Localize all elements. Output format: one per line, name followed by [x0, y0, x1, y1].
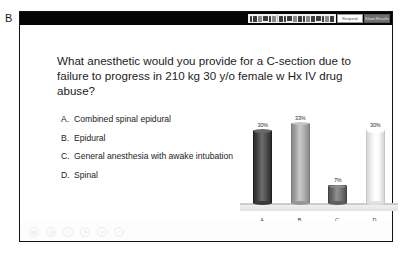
bold-icon[interactable]	[298, 16, 302, 22]
bar-group: 7%	[326, 114, 350, 204]
reply-icon[interactable]: ⤺	[114, 227, 124, 237]
question-text: What anesthetic would you provide for a …	[57, 53, 377, 98]
question-icon[interactable]: 2	[63, 227, 73, 237]
toolbar-divider	[277, 15, 278, 22]
settings-icon[interactable]	[330, 16, 334, 22]
list-item[interactable]: A. Combined spinal epidural	[61, 114, 246, 126]
show-results-button[interactable]: Show Results	[364, 14, 390, 23]
list-item[interactable]: C. General anesthesia with awake intubat…	[61, 151, 246, 163]
underline-icon[interactable]	[306, 16, 310, 22]
bar-group: 30%	[363, 114, 387, 204]
bar-base	[292, 201, 309, 204]
pen-icon[interactable]	[253, 16, 257, 22]
bar-base	[367, 201, 384, 204]
toolbar-icon-group-1	[248, 14, 336, 23]
image-icon[interactable]	[279, 16, 283, 22]
list-icon[interactable]: ≡	[97, 227, 107, 237]
bar-b	[291, 123, 310, 204]
bar-cap	[254, 129, 271, 132]
option-label: Spinal	[74, 170, 246, 182]
bar-a	[253, 130, 272, 204]
table-icon[interactable]	[287, 16, 292, 21]
option-label: Combined spinal epidural	[74, 114, 246, 126]
option-key: D.	[61, 170, 74, 182]
text-icon[interactable]	[272, 16, 276, 22]
option-key: B.	[61, 133, 74, 145]
bar-value-label: 33%	[295, 115, 306, 121]
respond-button[interactable]: Respond	[337, 14, 363, 23]
bar-cap	[329, 185, 346, 188]
bar-value-label: 7%	[334, 177, 342, 183]
answer-options-list: A. Combined spinal epidural B. Epidural …	[61, 114, 246, 188]
shapes-icon[interactable]	[269, 16, 271, 22]
chart-icon[interactable]	[284, 16, 286, 22]
highlighter-icon[interactable]	[258, 16, 262, 22]
option-label: Epidural	[74, 133, 246, 145]
bar-d	[366, 130, 385, 204]
bar-group: 33%	[288, 114, 312, 204]
option-key: C.	[61, 151, 74, 163]
chart-plot-area: 30% 33%	[238, 107, 398, 229]
option-key: A.	[61, 114, 74, 126]
slide-bottom-bar: ▣ ◍ 2 ✻ ≡ ⤺	[20, 221, 392, 241]
star-icon[interactable]: ✻	[80, 227, 90, 237]
bar-value-label: 30%	[370, 122, 381, 128]
zoom-icon[interactable]	[325, 16, 329, 22]
bar-c	[328, 185, 347, 204]
toolbar-controls: Respond Show Results	[248, 14, 392, 23]
camera-icon[interactable]: ▣	[29, 227, 39, 237]
list-item[interactable]: D. Spinal	[61, 170, 246, 182]
eraser-icon[interactable]	[263, 16, 268, 21]
bar-cap	[292, 122, 309, 125]
option-label: General anesthesia with awake intubation	[74, 151, 246, 163]
bar-base	[254, 201, 271, 204]
bar-group: 30%	[251, 114, 275, 204]
chart-bars: 30% 33%	[244, 114, 394, 204]
results-bar-chart: 30% 33%	[238, 107, 398, 229]
panel-letter: B	[5, 12, 12, 24]
figure-panel: B	[0, 0, 406, 253]
presentation-window: Respond Show Results What anesthetic wou…	[19, 11, 393, 242]
color-icon[interactable]	[322, 16, 324, 22]
cursor-icon[interactable]	[250, 16, 252, 22]
align-icon[interactable]	[311, 16, 315, 22]
bar-base	[329, 201, 346, 204]
bottom-icon-row: ▣ ◍ 2 ✻ ≡ ⤺	[29, 227, 124, 237]
comment-icon[interactable]: ◍	[46, 227, 56, 237]
bar-value-label: 30%	[258, 122, 269, 128]
list-icon[interactable]	[316, 16, 321, 21]
link-icon[interactable]	[293, 16, 297, 22]
italic-icon[interactable]	[303, 16, 305, 22]
slide-canvas: What anesthetic would you provide for a …	[20, 25, 392, 241]
bar-cap	[367, 129, 384, 132]
list-item[interactable]: B. Epidural	[61, 133, 246, 145]
app-toolbar: Respond Show Results	[20, 12, 392, 25]
